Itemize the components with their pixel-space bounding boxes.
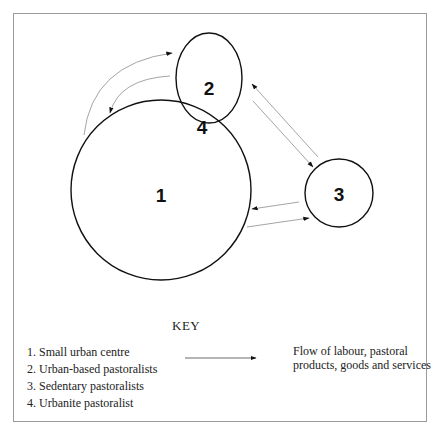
legend-item-1: 1. Small urban centre: [27, 344, 157, 361]
legend-item-3: 3. Sedentary pastoralists: [27, 378, 157, 395]
key-legend-list: 1. Small urban centre 2. Urban-based pas…: [27, 344, 157, 412]
flow-arrow-1-to-2: [84, 53, 172, 135]
flow-arrow-3-to-1: [252, 202, 299, 209]
node-4-label: 4: [197, 117, 208, 138]
legend-item-4: 4. Urbanite pastoralist: [27, 395, 157, 412]
legend-item-2: 2. Urban-based pastoralists: [27, 361, 157, 378]
flow-arrow-3-to-2: [252, 84, 318, 157]
key-arrow-meaning-line-2: products, goods and services: [293, 358, 433, 372]
key-arrow-meaning: Flow of labour, pastoral products, goods…: [293, 344, 433, 372]
key-title: KEY: [172, 318, 200, 334]
node-3-label: 3: [334, 184, 345, 205]
node-1-label: 1: [156, 185, 167, 206]
node-2-label: 2: [204, 78, 215, 99]
key-arrow-meaning-line-1: Flow of labour, pastoral: [293, 344, 433, 358]
flow-arrow-2-to-3: [253, 101, 313, 167]
flow-arrow-1-to-3: [247, 218, 309, 227]
flow-arrow-2-to-1: [110, 76, 170, 113]
